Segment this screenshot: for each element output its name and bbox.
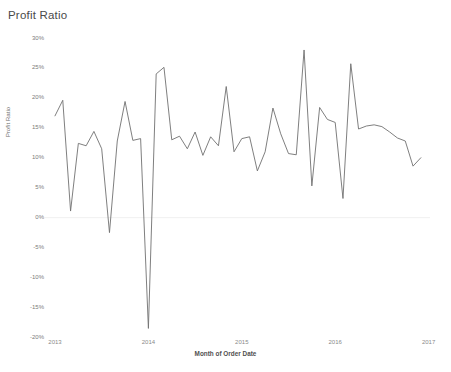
- x-tick-label: 2013: [48, 339, 61, 345]
- x-tick-label: 2015: [235, 339, 248, 345]
- profit-ratio-chart: Profit Ratio Profit Ratio 30%25%20%15%10…: [0, 0, 451, 372]
- plot-area: [0, 0, 451, 372]
- x-tick-label: 2014: [142, 339, 155, 345]
- x-axis-title: Month of Order Date: [0, 350, 451, 357]
- x-tick-label: 2016: [329, 339, 342, 345]
- profit-ratio-line: [55, 50, 421, 328]
- x-tick-label: 2017: [422, 339, 435, 345]
